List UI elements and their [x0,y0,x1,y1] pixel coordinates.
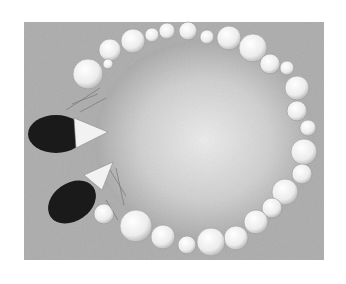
pearl [178,236,196,254]
pearl [121,29,145,53]
pearl [285,76,309,100]
pearl [300,120,316,136]
pearl [217,26,241,50]
pearl [197,228,225,256]
pearl [291,139,317,165]
pearl [292,164,312,184]
pearl [73,59,103,89]
pearl [179,22,197,40]
pearl [94,204,114,224]
pearl [145,28,159,42]
pearl [287,101,307,121]
pearl [260,54,280,74]
pearl [200,30,214,44]
pearl [120,210,152,242]
pearl [244,210,268,234]
illustration [0,0,346,284]
pearl [159,23,175,39]
pearl [99,39,121,61]
pearl [151,225,175,249]
pearl [280,61,294,75]
pearl [103,59,113,69]
pearl [224,226,248,250]
